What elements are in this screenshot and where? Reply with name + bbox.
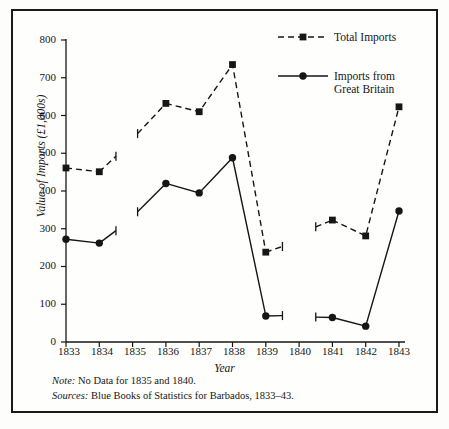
line-imports_from_great_britain	[166, 158, 266, 316]
axes	[61, 39, 405, 347]
data-point-total_imports-1842	[362, 233, 369, 240]
data-point-total_imports-1833	[63, 165, 70, 172]
chart-canvas	[0, 0, 449, 429]
data-point-imports_from_great_britain-1834	[96, 239, 103, 246]
figure-page: Value of Imports (£1,000s) Year 0 100 20…	[0, 0, 449, 429]
gap-stub-total_imports-1	[138, 103, 166, 133]
legend-marker-imports-great-britain	[299, 72, 306, 79]
legend-symbols	[278, 34, 328, 80]
data-point-total_imports-1839	[262, 249, 269, 256]
data-point-total_imports-1838	[229, 61, 236, 68]
line-total_imports	[166, 65, 266, 253]
data-point-imports_from_great_britain-1843	[395, 207, 402, 214]
data-point-imports_from_great_britain-1839	[262, 312, 269, 319]
data-point-imports_from_great_britain-1842	[362, 322, 369, 329]
data-point-imports_from_great_britain-1838	[229, 154, 236, 161]
line-total_imports	[332, 107, 399, 236]
data-point-total_imports-1843	[396, 103, 403, 110]
data-series	[62, 61, 402, 330]
data-point-imports_from_great_britain-1833	[62, 236, 69, 243]
line-total_imports	[66, 168, 99, 172]
data-point-imports_from_great_britain-1841	[329, 314, 336, 321]
data-point-total_imports-1841	[329, 217, 336, 224]
line-imports_from_great_britain	[66, 239, 99, 243]
data-point-total_imports-1837	[196, 108, 203, 115]
data-point-total_imports-1834	[96, 168, 103, 175]
data-point-imports_from_great_britain-1837	[196, 189, 203, 196]
line-imports_from_great_britain	[332, 211, 399, 326]
legend-marker-total-imports	[300, 34, 307, 41]
data-point-total_imports-1836	[163, 100, 170, 107]
data-point-imports_from_great_britain-1836	[162, 180, 169, 187]
gap-stub-imports_from_great_britain-1	[138, 183, 166, 211]
